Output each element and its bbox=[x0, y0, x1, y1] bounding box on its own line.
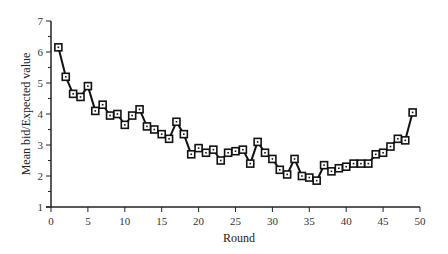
data-point-dot bbox=[161, 133, 163, 135]
data-point-dot bbox=[198, 147, 200, 149]
data-point-dot bbox=[190, 154, 192, 156]
data-point-dot bbox=[220, 160, 222, 162]
data-point-dot bbox=[80, 96, 82, 98]
x-tick-label: 45 bbox=[378, 215, 390, 227]
data-point-dot bbox=[360, 163, 362, 165]
data-point-dot bbox=[382, 152, 384, 154]
x-tick-label: 50 bbox=[415, 215, 427, 227]
data-point-dot bbox=[117, 113, 119, 115]
data-point-dot bbox=[249, 163, 251, 165]
data-point-dot bbox=[168, 138, 170, 140]
data-point-dot bbox=[294, 158, 296, 160]
data-point-dot bbox=[272, 158, 274, 160]
y-tick-label: 7 bbox=[38, 15, 44, 27]
data-point-dot bbox=[154, 129, 156, 131]
data-point-dot bbox=[264, 152, 266, 154]
x-tick-label: 0 bbox=[48, 215, 54, 227]
data-point-dot bbox=[102, 104, 104, 106]
y-tick-label: 3 bbox=[38, 139, 44, 151]
data-point-dot bbox=[316, 180, 318, 182]
y-tick-label: 4 bbox=[38, 108, 44, 120]
data-point-dot bbox=[213, 149, 215, 151]
data-point-dot bbox=[242, 149, 244, 151]
data-point-dot bbox=[309, 177, 311, 179]
data-point-dot bbox=[87, 85, 89, 87]
x-tick-label: 10 bbox=[119, 215, 131, 227]
x-tick-label: 35 bbox=[304, 215, 316, 227]
data-point-dot bbox=[65, 76, 67, 78]
x-tick-label: 5 bbox=[85, 215, 91, 227]
x-tick-label: 25 bbox=[230, 215, 242, 227]
data-point-dot bbox=[124, 124, 126, 126]
y-tick-label: 6 bbox=[38, 46, 44, 58]
data-point-dot bbox=[331, 171, 333, 173]
data-point-dot bbox=[286, 174, 288, 176]
data-point-dot bbox=[301, 175, 303, 177]
data-point-dot bbox=[404, 140, 406, 142]
y-tick-label: 1 bbox=[38, 201, 44, 213]
x-tick-label: 20 bbox=[193, 215, 205, 227]
data-point-dot bbox=[397, 138, 399, 140]
data-point-dot bbox=[412, 112, 414, 114]
data-point-dot bbox=[323, 164, 325, 166]
data-point-dot bbox=[279, 169, 281, 171]
data-point-dot bbox=[235, 150, 237, 152]
data-point-dot bbox=[146, 126, 148, 128]
data-point-dot bbox=[183, 133, 185, 135]
data-point-dot bbox=[390, 146, 392, 148]
data-point-dot bbox=[353, 163, 355, 165]
y-tick-label: 2 bbox=[38, 170, 44, 182]
data-point-dot bbox=[227, 152, 229, 154]
x-axis: 05101520253035404550 bbox=[46, 207, 426, 227]
data-point-dot bbox=[338, 167, 340, 169]
line-chart: 1234567 05101520253035404550 Round Mean … bbox=[0, 0, 448, 254]
y-axis: 1234567 bbox=[38, 15, 52, 213]
data-point-dot bbox=[176, 121, 178, 123]
x-tick-label: 15 bbox=[156, 215, 168, 227]
y-tick-label: 5 bbox=[38, 77, 44, 89]
x-axis-title: Round bbox=[223, 231, 255, 245]
data-point-dot bbox=[345, 166, 347, 168]
y-axis-title: Mean bid/Expected value bbox=[19, 53, 33, 176]
data-point-dot bbox=[94, 110, 96, 112]
data-point-dot bbox=[58, 47, 60, 49]
data-point-dot bbox=[139, 109, 141, 111]
data-point-dot bbox=[131, 115, 133, 117]
data-series bbox=[55, 44, 416, 184]
data-point-dot bbox=[368, 163, 370, 165]
data-point-dot bbox=[257, 141, 259, 143]
x-tick-label: 40 bbox=[341, 215, 353, 227]
data-point-dot bbox=[109, 115, 111, 117]
x-tick-label: 30 bbox=[267, 215, 279, 227]
data-point-dot bbox=[375, 154, 377, 156]
data-point-dot bbox=[205, 152, 207, 154]
data-point-dot bbox=[72, 93, 74, 95]
